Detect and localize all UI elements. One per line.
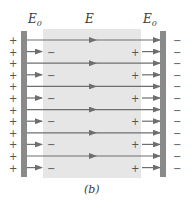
induced-charge-minus: −: [47, 163, 55, 174]
plate-charge-minus: −: [173, 116, 181, 127]
right-plate: [160, 31, 166, 177]
induced-charge-minus: −: [47, 93, 55, 104]
plate-charge-minus: −: [173, 151, 181, 162]
plate-charge-plus: +: [9, 47, 17, 58]
plate-charge-minus: −: [173, 70, 181, 81]
plate-charge-minus: −: [173, 47, 181, 58]
induced-charge-minus: −: [47, 47, 55, 58]
plate-charge-minus: −: [173, 105, 181, 116]
plate-charge-plus: +: [9, 70, 17, 81]
capacitor-dielectric-diagram: E0 E E0 +−+−−++−+−−++−+−−++−+−−++−+−−++−…: [0, 0, 196, 207]
plate-charge-plus: +: [9, 105, 17, 116]
induced-charge-plus: +: [131, 139, 139, 150]
plate-charge-minus: −: [173, 58, 181, 69]
plate-charge-plus: +: [9, 58, 17, 69]
plate-charge-minus: −: [173, 128, 181, 139]
left-plate: [21, 31, 27, 177]
plate-charge-plus: +: [9, 35, 17, 46]
label-e0-left: E0: [27, 12, 42, 28]
plate-charge-plus: +: [9, 81, 17, 92]
plate-charge-plus: +: [9, 139, 17, 150]
plate-charge-minus: −: [173, 93, 181, 104]
plate-charge-plus: +: [9, 93, 17, 104]
induced-charge-minus: −: [47, 116, 55, 127]
induced-charge-minus: −: [47, 70, 55, 81]
plate-charge-minus: −: [173, 139, 181, 150]
plate-charge-plus: +: [9, 151, 17, 162]
caption: (b): [84, 183, 100, 196]
plate-charge-minus: −: [173, 35, 181, 46]
induced-charge-plus: +: [131, 93, 139, 104]
label-e0-right: E0: [142, 12, 157, 28]
induced-charge-plus: +: [131, 116, 139, 127]
induced-charge-plus: +: [131, 47, 139, 58]
plate-charge-minus: −: [173, 81, 181, 92]
label-e-center: E: [84, 12, 94, 26]
plate-charge-minus: −: [173, 163, 181, 174]
induced-charge-plus: +: [131, 70, 139, 81]
plate-charge-plus: +: [9, 163, 17, 174]
plate-charge-plus: +: [9, 116, 17, 127]
induced-charge-plus: +: [131, 163, 139, 174]
plate-charge-plus: +: [9, 128, 17, 139]
induced-charge-minus: −: [47, 139, 55, 150]
